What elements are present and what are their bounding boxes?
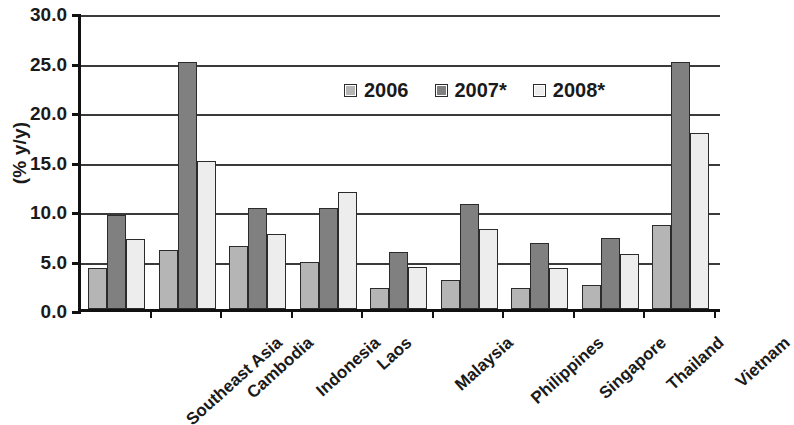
- y-axis-tickmark: [72, 212, 81, 215]
- bar: [319, 208, 338, 309]
- legend-label: 2007*: [455, 79, 507, 102]
- bar: [582, 285, 601, 309]
- bar: [300, 262, 319, 309]
- bar: [549, 268, 568, 309]
- bar-group: [578, 12, 649, 309]
- x-axis-label: Indonesia: [312, 333, 384, 401]
- bar: [229, 246, 248, 309]
- x-axis-tickmark: [150, 309, 152, 318]
- legend-item: 2008*: [533, 79, 605, 102]
- x-axis-label: Vietnam: [732, 333, 794, 392]
- bar: [530, 243, 549, 309]
- chart-legend: 20062007*2008*: [344, 79, 605, 102]
- bar-group-bars: [229, 12, 286, 309]
- y-axis-tickmark: [72, 113, 81, 116]
- bar-group-bars: [441, 12, 498, 309]
- bar-group-bars: [159, 12, 216, 309]
- x-axis-tickmark: [361, 309, 363, 318]
- plot-area: 30.025.020.015.010.05.00.0Southeast Asia…: [78, 15, 720, 312]
- y-axis-tickmark: [72, 14, 81, 17]
- x-axis-tickmark: [432, 309, 434, 318]
- legend-item: 2007*: [435, 79, 507, 102]
- legend-swatch: [533, 84, 546, 97]
- bar-group-bars: [511, 12, 568, 309]
- x-axis-label: Malaysia: [451, 333, 517, 395]
- bar-group: [648, 12, 719, 309]
- bar: [88, 268, 107, 309]
- y-axis-tick-label: 0.0: [7, 301, 67, 323]
- bar-group-bars: [652, 12, 709, 309]
- bar: [107, 215, 126, 309]
- legend-item: 2006: [344, 79, 409, 102]
- legend-label: 2006: [364, 79, 409, 102]
- bar-group: [296, 12, 367, 309]
- x-axis-tickmark: [502, 309, 504, 318]
- bar: [338, 192, 357, 309]
- bar-group-bars: [582, 12, 639, 309]
- bar: [690, 133, 709, 309]
- y-axis-tick-label: 10.0: [7, 202, 67, 224]
- bar: [248, 208, 267, 309]
- bar: [267, 234, 286, 309]
- legend-swatch: [435, 84, 448, 97]
- bar-group: [155, 12, 226, 309]
- bar-group: [84, 12, 155, 309]
- bar-group-bars: [300, 12, 357, 309]
- x-axis-label: Singapore: [595, 333, 670, 403]
- y-axis-tick-label: 5.0: [7, 252, 67, 274]
- bar: [601, 238, 620, 309]
- y-axis-tick-label: 15.0: [7, 153, 67, 175]
- x-axis-tickmark: [643, 309, 645, 318]
- bar-group: [225, 12, 296, 309]
- bar: [460, 204, 479, 309]
- bar: [197, 161, 216, 310]
- bar: [178, 62, 197, 310]
- bar-group-bars: [88, 12, 145, 309]
- x-axis-label: Laos: [373, 333, 416, 374]
- y-axis-tickmark: [72, 64, 81, 67]
- legend-label: 2008*: [553, 79, 605, 102]
- bar: [126, 239, 145, 309]
- bar-group: [366, 12, 437, 309]
- y-axis-tickmark: [72, 262, 81, 265]
- legend-swatch: [344, 84, 357, 97]
- bar: [671, 62, 690, 310]
- bar-group: [437, 12, 508, 309]
- y-axis-tick-label: 20.0: [7, 103, 67, 125]
- bar: [389, 252, 408, 309]
- bar: [652, 225, 671, 309]
- x-axis-label: Thailand: [662, 333, 727, 395]
- bar: [620, 254, 639, 309]
- bar: [511, 288, 530, 309]
- bar-group: [507, 12, 578, 309]
- x-axis-tickmark: [714, 309, 716, 318]
- x-axis-tickmark: [220, 309, 222, 318]
- bar: [441, 280, 460, 309]
- y-axis-tick-label: 30.0: [7, 4, 67, 26]
- bar: [479, 229, 498, 309]
- x-axis-tickmark: [291, 309, 293, 318]
- bar: [159, 250, 178, 309]
- bar-group-bars: [370, 12, 427, 309]
- bar: [408, 267, 427, 309]
- x-axis-label: Philippines: [527, 333, 608, 409]
- x-axis-tickmark: [573, 309, 575, 318]
- y-axis-tickmark: [72, 163, 81, 166]
- y-axis-tick-label: 25.0: [7, 54, 67, 76]
- bar: [370, 288, 389, 309]
- y-axis-tickmark: [72, 311, 81, 314]
